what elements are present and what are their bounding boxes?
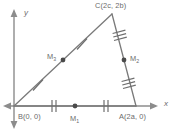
x-axis-arrow-left: [3, 103, 11, 110]
midpoint-dot-M2: [122, 58, 127, 63]
vertex-label-C: C(2c, 2b): [95, 2, 126, 9]
y-axis-arrow-down: [11, 121, 18, 129]
midpoint-label-M3-subscript: 3: [53, 56, 56, 62]
vertex-label-A: A(2a, 0): [119, 113, 146, 120]
midpoint-label-M2-subscript: 2: [136, 58, 139, 64]
midpoint-label-M1: M1: [70, 115, 79, 122]
ticks-BC-upper-half: [77, 39, 87, 50]
geometry-figure: C(2c, 2b) B(0, 0) A(2a, 0) M1 M2 M3 x y: [0, 0, 178, 132]
x-axis-label: x: [164, 100, 168, 108]
axes-group: [3, 9, 158, 129]
ticks-BC-lower-half: [33, 80, 43, 91]
midpoint-label-M2: M2: [130, 55, 139, 62]
ticks-CA-upper-half: [113, 30, 127, 40]
midpoint-dots-group: [61, 58, 127, 109]
x-axis-arrow-right: [150, 103, 158, 110]
midpoint-dot-M1: [73, 104, 78, 109]
vertex-label-B: B(0, 0): [18, 113, 41, 120]
ticks-side-BC: [33, 39, 87, 91]
midpoint-label-M3: M3: [47, 53, 56, 60]
y-axis-arrow-up: [11, 9, 18, 17]
midpoint-dot-M3: [61, 58, 66, 63]
triangle-sides-group: [14, 14, 136, 106]
y-axis-label: y: [24, 9, 28, 17]
ticks-CA-lower-half: [122, 78, 136, 88]
midpoint-label-M1-subscript: 1: [76, 118, 79, 124]
